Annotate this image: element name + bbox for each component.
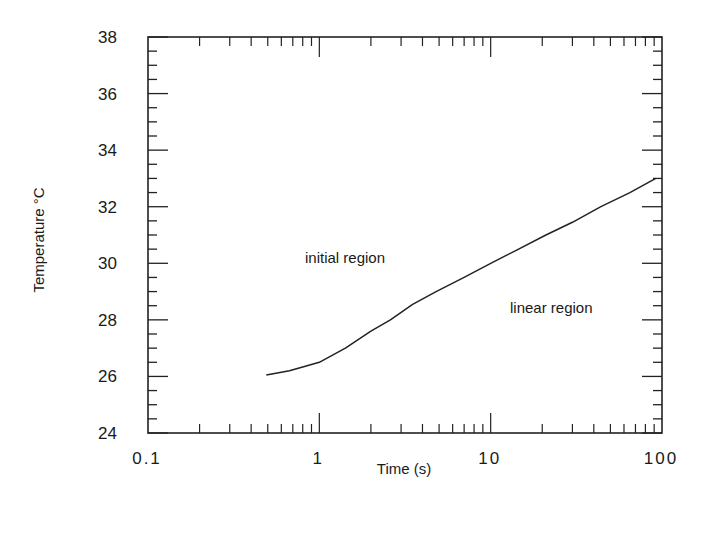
y-tick-label: 38 [98,28,117,47]
x-tick-label: 100 [644,449,678,468]
y-tick-label: 28 [98,311,117,330]
annotation-linear-region: linear region [510,299,593,316]
x-tick-label: 10 [478,449,501,468]
y-tick-label: 30 [98,254,117,273]
chart: 2426283032343638 0.1110100 Time (s) Temp… [0,0,708,541]
y-tick-label: 24 [98,424,117,443]
y-axis-ticks [148,37,662,433]
y-tick-label: 26 [98,367,117,386]
y-tick-label: 32 [98,198,117,217]
annotation-initial-region: initial region [305,249,385,266]
temperature-curve [266,178,656,375]
y-tick-label: 36 [98,85,117,104]
plot-frame [148,37,662,433]
x-axis-ticks [200,37,655,433]
y-axis-tick-labels: 2426283032343638 [98,28,117,443]
x-tick-label: 1 [313,449,324,468]
x-tick-label: 0.1 [132,449,162,468]
y-tick-label: 34 [98,141,117,160]
y-axis-label: Temperature °C [30,187,47,292]
x-axis-label: Time (s) [377,460,431,477]
